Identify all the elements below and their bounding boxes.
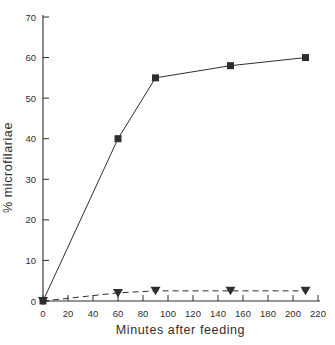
y-tick-label: 30 [25,174,36,185]
series-line-dashed-line-filled-triangles [43,291,306,301]
x-tick-label: 160 [235,308,251,319]
series-line-solid-line-filled-squares [43,58,306,301]
x-tick-label: 220 [310,308,326,319]
data-point-triangle-down-marker [151,287,161,296]
x-tick-label: 60 [113,308,124,319]
y-tick-label: 40 [25,133,36,144]
y-tick-label: 10 [25,255,36,266]
x-tick-label: 20 [63,308,74,319]
data-point-square-marker [115,135,122,142]
data-point-square-marker [302,54,309,61]
data-point-triangle-down-marker [301,287,311,296]
y-tick-label: 70 [25,12,36,23]
x-tick-label: 180 [260,308,276,319]
y-tick-label: 60 [25,52,36,63]
x-tick-label: 120 [185,308,201,319]
y-tick-label: 20 [25,214,36,225]
data-point-square-marker [152,74,159,81]
chart-figure: 0204060801001201401601802002200102030405… [0,0,335,345]
y-tick-label: 50 [25,93,36,104]
x-tick-label: 40 [88,308,99,319]
x-tick-label: 0 [40,308,45,319]
x-tick-label: 80 [138,308,149,319]
data-point-square-marker [227,62,234,69]
x-tick-label: 100 [160,308,176,319]
y-axis-title: % microfilariae [0,100,16,235]
x-axis-title: Minutes after feeding [43,323,318,337]
y-tick-label: 0 [31,296,36,307]
x-tick-label: 200 [285,308,301,319]
chart-plot-canvas: 0204060801001201401601802002200102030405… [0,0,335,345]
x-tick-label: 140 [210,308,226,319]
